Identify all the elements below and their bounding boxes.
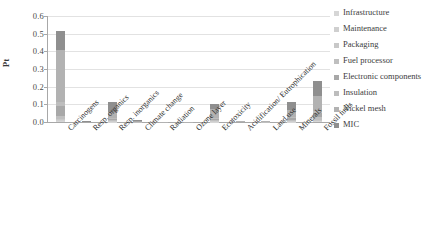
bar-segment[interactable] [56,50,65,103]
x-axis-tick-label: Carcinogens [66,126,72,132]
y-axis-tick-labels: 0.00.10.20.30.40.50.6 [0,0,44,243]
legend-item[interactable]: Nickel mesh [334,104,438,114]
legend-item-label: MIC [343,120,359,130]
legend-swatch-icon [334,75,339,80]
legend-item[interactable]: Maintenance [334,24,438,34]
y-axis-tick-label: 0.1 [4,100,44,109]
y-axis-tick-label: 0.3 [4,65,44,74]
legend-swatch-icon [334,43,339,48]
x-axis-tick-label: Resp. organics [91,126,97,132]
legend-item[interactable]: Infrastructure [334,8,438,18]
x-axis-tick-label: Climate change [143,126,149,132]
legend-item[interactable]: Insulation [334,88,438,98]
stacked-bar[interactable] [82,121,91,122]
legend-item-label: Maintenance [343,24,387,34]
legend-swatch-icon [334,123,339,128]
y-axis-tick-label: 0.5 [4,30,44,39]
x-axis-tick-label: Ecotoxicity [220,126,226,132]
legend-item[interactable]: Fuel processor [334,56,438,66]
legend-swatch-icon [334,27,339,32]
y-axis-tick [44,122,48,123]
legend-swatch-icon [334,59,339,64]
y-axis-tick-label: 0.2 [4,83,44,92]
legend-item-label: Packaging [343,40,378,50]
legend-swatch-icon [334,91,339,96]
stacked-bar[interactable] [56,31,65,122]
legend-swatch-icon [334,11,339,16]
legend-item-label: Insulation [343,88,377,98]
x-axis-tick-label: Resp. inorganics [117,126,123,132]
legend-item-label: Electronic components [343,72,421,82]
x-axis-tick-label: Fossil fuels [322,126,328,132]
legend-swatch-icon [334,107,339,112]
x-axis-tick-label: Land use [271,126,277,132]
legend-item[interactable]: Packaging [334,40,438,50]
legend-item[interactable]: Electronic components [334,72,438,82]
x-axis-tick-label: Radiation [168,126,174,132]
y-axis-tick-label: 0.0 [4,118,44,127]
bar-segment[interactable] [56,121,65,122]
legend-item-label: Infrastructure [343,8,389,18]
bar-segment[interactable] [56,31,65,50]
y-axis-tick-label: 0.4 [4,47,44,56]
legend-item-label: Nickel mesh [343,104,386,114]
y-axis-tick-label: 0.6 [4,12,44,21]
chart-legend: InfrastructureMaintenancePackagingFuel p… [334,8,438,136]
legend-item-label: Fuel processor [343,56,393,66]
x-axis-tick-label: Minerals [297,126,303,132]
bar-segment[interactable] [313,81,322,95]
bar-slot [48,16,74,122]
x-axis-tick-label: Ozone layer [194,126,200,132]
bar-segment[interactable] [56,106,65,117]
stacked-bar-chart: Pt 0.00.10.20.30.40.50.6 CarcinogensResp… [0,0,438,243]
x-axis-tick-labels: CarcinogensResp. organicsResp. inorganic… [47,124,329,243]
x-axis-tick-label: Acidification/ Eutrophication [245,126,251,132]
legend-item[interactable]: MIC [334,120,438,130]
